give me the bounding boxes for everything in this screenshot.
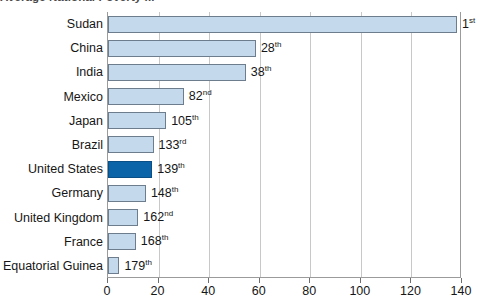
x-axis-tick-label: 140 <box>451 285 472 298</box>
bar-row[interactable]: 133rd <box>108 133 460 157</box>
x-axis-tick-label: 60 <box>252 285 266 298</box>
ordinal-suffix: rd <box>179 137 186 146</box>
bar[interactable] <box>108 16 457 33</box>
bar[interactable] <box>108 88 184 105</box>
y-axis-label: Germany <box>0 187 103 200</box>
bar-rank-label: 179th <box>124 260 152 273</box>
y-axis-label: Mexico <box>0 91 103 104</box>
bar[interactable] <box>108 233 136 250</box>
bar[interactable] <box>108 161 152 178</box>
bar-row[interactable]: 168th <box>108 230 460 254</box>
y-axis-label: France <box>0 236 103 249</box>
bar[interactable] <box>108 112 166 129</box>
bar-row[interactable]: 162nd <box>108 205 460 229</box>
x-axis-tick <box>259 278 260 283</box>
bar-row[interactable]: 82nd <box>108 85 460 109</box>
bar-row[interactable]: 139th <box>108 157 460 181</box>
ordinal-suffix: th <box>162 233 169 242</box>
bar-rank-label: 38th <box>251 66 272 79</box>
ordinal-suffix: th <box>265 64 272 73</box>
bar[interactable] <box>108 209 138 226</box>
x-axis: 020406080100120140 <box>107 278 461 306</box>
x-axis-tick-label: 40 <box>201 285 215 298</box>
chart-title: Average National Poverty ... <box>0 0 330 7</box>
bar-rows: 1st28th38th82nd105th133rd139th148th162nd… <box>108 12 460 277</box>
x-axis-tick <box>158 278 159 283</box>
bar-rank-label: 105th <box>171 115 199 128</box>
ordinal-suffix: st <box>469 16 475 25</box>
x-axis-tick <box>461 278 462 283</box>
ordinal-suffix: nd <box>164 209 173 218</box>
ordinal-suffix: th <box>192 112 199 121</box>
y-axis-label: China <box>0 42 103 55</box>
bar-rank-label: 168th <box>141 235 169 248</box>
x-axis-tick <box>360 278 361 283</box>
ordinal-suffix: nd <box>203 88 212 97</box>
bar-rank-label: 133rd <box>159 139 187 152</box>
ordinal-suffix: th <box>172 185 179 194</box>
y-axis-label: India <box>0 66 103 79</box>
ordinal-suffix: th <box>145 257 152 266</box>
bar[interactable] <box>108 64 246 81</box>
x-axis-tick-label: 80 <box>302 285 316 298</box>
bar-row[interactable]: 179th <box>108 254 460 278</box>
y-axis-label: Japan <box>0 115 103 128</box>
bar-rank-label: 139th <box>157 163 185 176</box>
bar-rank-label: 82nd <box>189 90 212 103</box>
ordinal-suffix: th <box>275 40 282 49</box>
bar-row[interactable]: 28th <box>108 36 460 60</box>
x-axis-tick-label: 0 <box>104 285 111 298</box>
bar[interactable] <box>108 257 119 274</box>
bar-row[interactable]: 38th <box>108 60 460 84</box>
ordinal-suffix: th <box>178 161 185 170</box>
bar-chart: Average National Poverty ... SudanChinaI… <box>0 0 480 306</box>
bar-row[interactable]: 105th <box>108 109 460 133</box>
bar-rank-label: 28th <box>261 42 282 55</box>
y-axis-label: Brazil <box>0 139 103 152</box>
bar[interactable] <box>108 40 256 57</box>
y-axis-label: Equatorial Guinea <box>0 260 103 273</box>
bar-row[interactable]: 148th <box>108 181 460 205</box>
x-axis-tick <box>309 278 310 283</box>
y-axis-label: United Kingdom <box>0 212 103 225</box>
bar[interactable] <box>108 136 154 153</box>
bar[interactable] <box>108 185 146 202</box>
plot-area: 1st28th38th82nd105th133rd139th148th162nd… <box>107 12 461 278</box>
x-axis-tick-label: 100 <box>349 285 370 298</box>
bar-rank-label: 162nd <box>143 211 173 224</box>
bar-rank-label: 148th <box>151 187 179 200</box>
y-axis-category-labels: SudanChinaIndiaMexicoJapanBrazilUnited S… <box>0 12 103 278</box>
x-axis-tick <box>208 278 209 283</box>
x-axis-tick-label: 120 <box>400 285 421 298</box>
x-axis-tick <box>107 278 108 283</box>
x-axis-tick-label: 20 <box>151 285 165 298</box>
bar-row[interactable]: 1st <box>108 12 460 36</box>
y-axis-label: Sudan <box>0 18 103 31</box>
bar-rank-label: 1st <box>462 18 475 31</box>
x-axis-tick <box>410 278 411 283</box>
y-axis-label: United States <box>0 163 103 176</box>
